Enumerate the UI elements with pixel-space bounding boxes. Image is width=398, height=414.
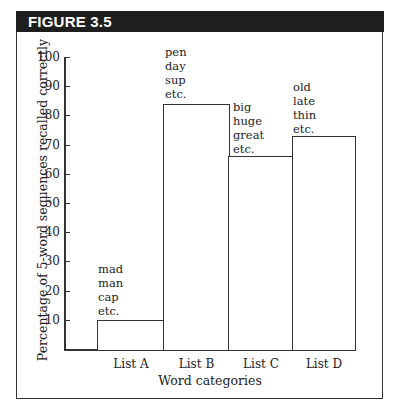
y-tick [64,203,70,204]
y-tick-label: 90 [30,80,60,92]
annotation-list-b: pen day sup etc. [165,45,187,101]
y-tick-label: 100 [30,51,60,63]
category-label: List C [228,357,294,371]
y-tick [64,261,70,262]
y-tick-label: 50 [30,197,60,209]
bar-list-a [97,320,165,350]
annotation-list-a: mad man cap etc. [98,262,123,318]
y-tick [64,57,70,58]
annotation-list-d: old late thin etc. [293,80,316,136]
y-tick-label: 20 [30,285,60,297]
category-label: List A [97,357,165,371]
y-tick-label: 60 [30,168,60,180]
y-tick [64,174,70,175]
y-tick-label: 10 [30,314,60,326]
y-tick [64,291,70,292]
y-tick-label: 70 [30,139,60,151]
bar-list-d [292,136,356,350]
x-axis-label: Word categories [64,373,356,388]
bar-list-c [228,156,294,350]
category-label: List D [292,357,356,371]
y-tick [64,232,70,233]
category-label: List B [163,357,230,371]
y-tick [64,320,70,321]
y-tick-label: 80 [30,109,60,121]
bar-list-b [163,104,230,350]
y-tick [64,115,70,116]
y-tick-label: 30 [30,255,60,267]
y-tick [64,145,70,146]
y-tick [64,86,70,87]
figure-title: FIGURE 3.5 [28,13,112,30]
figure-header: FIGURE 3.5 [16,11,384,32]
annotation-list-c: big huge great etc. [233,100,264,156]
y-tick-label: 40 [30,226,60,238]
